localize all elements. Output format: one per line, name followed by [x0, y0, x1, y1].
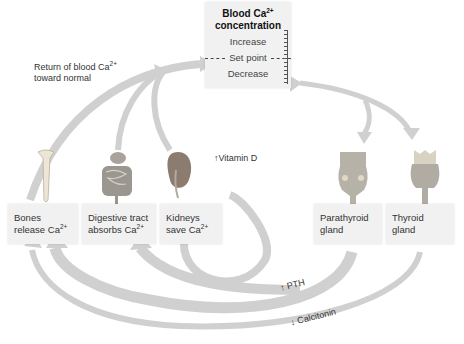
digestive-line2: absorbs Ca: [88, 224, 137, 235]
vitamin-d-label: ↑Vitamin D: [214, 153, 257, 164]
bones-box: Bones release Ca2+: [8, 204, 78, 244]
parathyroid-box: Parathyroid gland: [314, 204, 382, 244]
title-sup: 2+: [266, 7, 273, 14]
kidneys-sup: 2+: [201, 223, 208, 230]
scale-ticks: [284, 30, 288, 84]
thyroid-box: Thyroid gland: [386, 204, 454, 244]
bone-icon: [36, 148, 56, 206]
blood-calcium-box: Blood Ca2+ concentration Increase Set po…: [205, 2, 291, 88]
title-line2: concentration: [215, 20, 281, 31]
return-line1: Return of blood Ca: [34, 62, 110, 72]
return-line2: toward normal: [34, 73, 91, 83]
bones-sup: 2+: [60, 223, 67, 230]
digestive-line1: Digestive tract: [88, 212, 148, 223]
digestive-tract-icon: [96, 150, 136, 208]
parathyroid-line1: Parathyroid: [320, 212, 369, 223]
blood-calcium-title: Blood Ca2+ concentration: [209, 8, 287, 32]
return-sup: 2+: [110, 60, 117, 67]
thyroid-icon: [408, 148, 442, 206]
bones-line2: release Ca: [14, 224, 60, 235]
calcium-homeostasis-diagram: Blood Ca2+ concentration Increase Set po…: [0, 0, 464, 344]
digestive-sup: 2+: [137, 223, 144, 230]
bones-line1: Bones: [14, 212, 41, 223]
kidneys-line2: save Ca: [166, 224, 201, 235]
kidneys-line1: Kidneys: [166, 212, 200, 223]
vitamin-d-text: Vitamin D: [219, 153, 258, 163]
return-label: Return of blood Ca2+ toward normal: [34, 62, 117, 84]
level-set-point: Set point: [209, 52, 287, 64]
level-increase: Increase: [209, 36, 287, 48]
title-text: Blood Ca: [222, 8, 266, 19]
parathyroid-icon: [336, 150, 370, 206]
thyroid-line1: Thyroid: [392, 212, 424, 223]
level-decrease: Decrease: [209, 68, 287, 80]
parathyroid-line2: gland: [320, 224, 343, 235]
kidney-icon: [164, 150, 196, 200]
thyroid-line2: gland: [392, 224, 415, 235]
digestive-box: Digestive tract absorbs Ca2+: [82, 204, 156, 244]
kidneys-box: Kidneys save Ca2+: [160, 204, 222, 244]
